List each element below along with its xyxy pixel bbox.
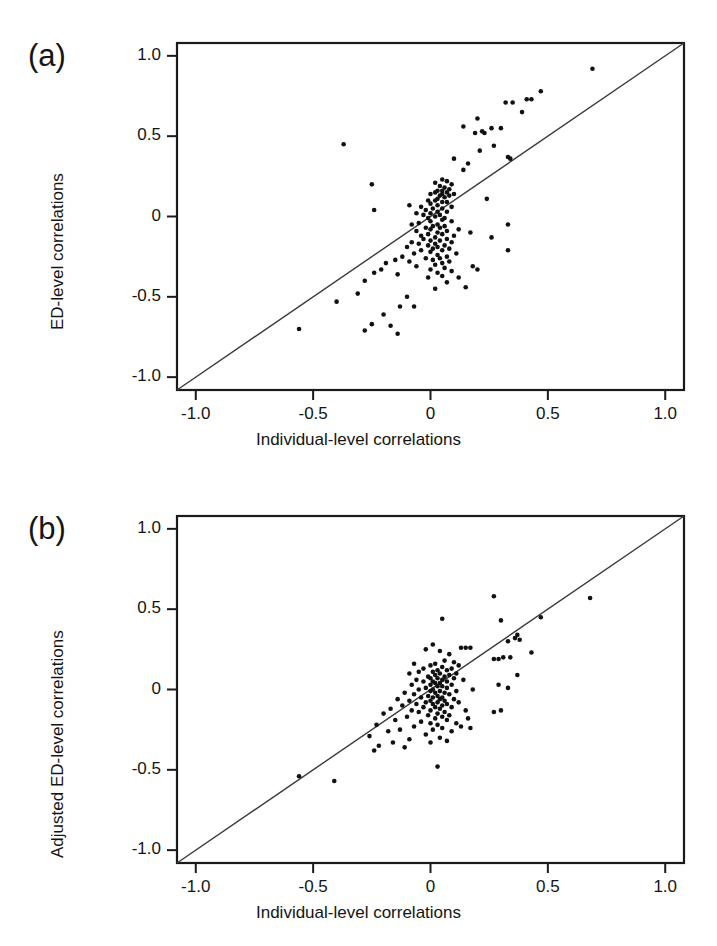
scatter-point: [370, 322, 375, 327]
scatter-point: [435, 245, 440, 250]
scatter-point: [456, 275, 461, 280]
scatter-point: [447, 652, 452, 657]
panel-b-y-axis-title: Adjusted ED-level correlations: [48, 630, 68, 858]
scatter-point: [468, 645, 473, 650]
scatter-point: [445, 686, 450, 691]
figure-root: (a) Individual-level correlations ED-lev…: [0, 0, 717, 946]
scatter-point: [447, 673, 452, 678]
scatter-point: [438, 671, 443, 676]
scatter-point: [398, 304, 403, 309]
scatter-point: [456, 700, 461, 705]
scatter-point: [414, 229, 419, 234]
scatter-point: [409, 708, 414, 713]
scatter-point: [492, 594, 497, 599]
scatter-point: [412, 251, 417, 256]
scatter-point: [438, 649, 443, 654]
scatter-point: [424, 208, 429, 213]
scatter-point: [468, 230, 473, 235]
scatter-point: [409, 240, 414, 245]
scatter-point: [468, 726, 473, 731]
scatter-point: [588, 596, 593, 601]
scatter-point: [449, 240, 454, 245]
scatter-point: [431, 206, 436, 211]
scatter-point: [362, 328, 367, 333]
y-tick-label: -0.5: [91, 286, 161, 306]
scatter-point: [424, 647, 429, 652]
scatter-point: [449, 269, 454, 274]
scatter-point: [374, 723, 379, 728]
scatter-point: [539, 615, 544, 620]
scatter-point: [424, 686, 429, 691]
scatter-point: [440, 248, 445, 253]
scatter-point: [332, 779, 337, 784]
scatter-point: [454, 251, 459, 256]
scatter-point: [438, 238, 443, 243]
scatter-point: [393, 258, 398, 263]
scatter-point: [433, 214, 438, 219]
scatter-point: [477, 148, 482, 153]
scatter-point: [384, 261, 389, 266]
scatter-point: [428, 663, 433, 668]
scatter-point: [409, 222, 414, 227]
scatter-point: [510, 100, 515, 105]
scatter-point: [435, 723, 440, 728]
scatter-point: [499, 618, 504, 623]
scatter-point: [419, 719, 424, 724]
scatter-point: [445, 702, 450, 707]
scatter-point: [405, 295, 410, 300]
scatter-point: [414, 211, 419, 216]
scatter-point: [416, 221, 421, 226]
scatter-point: [421, 237, 426, 242]
scatter-point: [447, 713, 452, 718]
x-tick-label: 1.0: [625, 404, 705, 424]
scatter-point: [341, 142, 346, 147]
panel-b: (b) Individual-level correlations Adjust…: [0, 473, 717, 946]
scatter-point: [447, 259, 452, 264]
scatter-point: [431, 258, 436, 263]
scatter-point: [428, 250, 433, 255]
scatter-point: [426, 275, 431, 280]
x-tick-label: -0.5: [273, 404, 353, 424]
scatter-point: [461, 678, 466, 683]
scatter-point: [395, 697, 400, 702]
scatter-point: [508, 655, 513, 660]
scatter-point: [428, 192, 433, 197]
scatter-point: [428, 219, 433, 224]
scatter-point: [395, 272, 400, 277]
scatter-point: [461, 168, 466, 173]
scatter-point: [400, 703, 405, 708]
scatter-point: [426, 232, 431, 237]
scatter-point: [482, 131, 487, 136]
x-tick-label: 0.5: [508, 404, 588, 424]
scatter-point: [438, 706, 443, 711]
scatter-point: [452, 156, 457, 161]
x-tick-label: 0: [391, 404, 471, 424]
scatter-point: [447, 193, 452, 198]
scatter-point: [445, 229, 450, 234]
panel-a-x-axis-title: Individual-level correlations: [0, 430, 717, 450]
scatter-point: [416, 670, 421, 675]
scatter-point: [431, 642, 436, 647]
scatter-point: [426, 694, 431, 699]
scatter-point: [442, 224, 447, 229]
scatter-point: [388, 706, 393, 711]
scatter-point: [440, 665, 445, 670]
scatter-point: [496, 682, 501, 687]
scatter-point: [452, 676, 457, 681]
scatter-point: [400, 254, 405, 259]
scatter-point: [454, 721, 459, 726]
y-tick-label: 1.0: [91, 518, 161, 538]
scatter-point: [424, 225, 429, 230]
scatter-point: [492, 710, 497, 715]
scatter-point: [454, 689, 459, 694]
scatter-point: [407, 698, 412, 703]
scatter-point: [445, 237, 450, 242]
scatter-point: [456, 663, 461, 668]
scatter-point: [445, 179, 450, 184]
scatter-point: [515, 673, 520, 678]
scatter-point: [517, 637, 522, 642]
scatter-point: [435, 764, 440, 769]
scatter-point: [421, 705, 426, 710]
x-tick-label: 0: [391, 877, 471, 897]
panel-a-identity-line: [177, 43, 684, 390]
